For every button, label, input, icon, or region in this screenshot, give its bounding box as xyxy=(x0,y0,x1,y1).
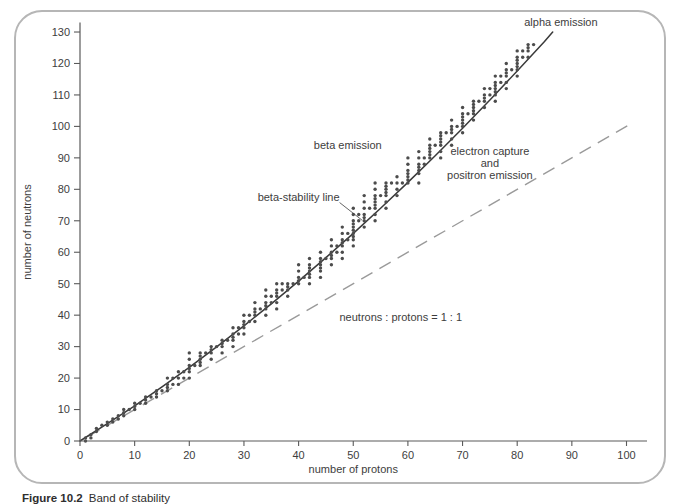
data-point xyxy=(406,181,409,184)
y-tick-label: 50 xyxy=(58,278,70,290)
data-point xyxy=(494,93,497,96)
data-point xyxy=(423,163,426,166)
data-point xyxy=(117,417,120,420)
data-point xyxy=(373,188,376,191)
data-point xyxy=(231,336,234,339)
data-point xyxy=(177,370,180,373)
data-point xyxy=(472,103,475,106)
data-point xyxy=(264,301,267,304)
data-point xyxy=(210,345,213,348)
data-point xyxy=(494,90,497,93)
data-point xyxy=(461,112,464,115)
data-point xyxy=(286,295,289,298)
data-point xyxy=(106,424,109,427)
data-point xyxy=(319,260,322,263)
data-point xyxy=(352,238,355,241)
data-point xyxy=(231,332,234,335)
data-point xyxy=(193,364,196,367)
data-point xyxy=(357,219,360,222)
data-point xyxy=(363,216,366,219)
data-point xyxy=(188,370,191,373)
data-point xyxy=(275,307,278,310)
data-point xyxy=(281,282,284,285)
data-point xyxy=(199,361,202,364)
data-point xyxy=(242,314,245,317)
data-point xyxy=(308,276,311,279)
y-tick-label: 70 xyxy=(58,215,70,227)
data-point xyxy=(352,225,355,228)
data-point xyxy=(439,137,442,140)
data-point xyxy=(439,150,442,153)
data-point xyxy=(297,276,300,279)
data-point xyxy=(450,131,453,134)
data-point xyxy=(220,345,223,348)
data-point xyxy=(149,395,152,398)
y-tick-label: 110 xyxy=(52,89,70,101)
y-tick-label: 120 xyxy=(52,57,70,69)
data-point xyxy=(275,282,278,285)
data-point xyxy=(363,225,366,228)
data-point xyxy=(428,150,431,153)
data-point xyxy=(199,364,202,367)
data-point xyxy=(466,112,469,115)
data-point xyxy=(505,87,508,90)
data-point xyxy=(155,389,158,392)
data-point xyxy=(352,244,355,247)
data-point xyxy=(417,169,420,172)
data-point xyxy=(417,172,420,175)
data-point xyxy=(155,392,158,395)
data-point xyxy=(472,106,475,109)
data-point xyxy=(516,49,519,52)
data-point xyxy=(384,194,387,197)
data-point xyxy=(319,276,322,279)
data-point xyxy=(177,376,180,379)
y-tick-label: 100 xyxy=(52,120,70,132)
annotation-line: and xyxy=(481,157,499,169)
data-point xyxy=(319,266,322,269)
annotation-beta-emission: beta emission xyxy=(314,139,382,151)
data-point xyxy=(330,244,333,247)
data-point xyxy=(516,65,519,68)
data-point xyxy=(166,383,169,386)
data-point xyxy=(352,219,355,222)
data-point xyxy=(270,295,273,298)
data-point xyxy=(231,345,234,348)
data-point xyxy=(445,131,448,134)
data-point xyxy=(526,49,529,52)
data-point xyxy=(308,263,311,266)
data-point xyxy=(188,364,191,367)
data-point xyxy=(319,251,322,254)
data-point xyxy=(275,288,278,291)
data-point xyxy=(384,185,387,188)
data-point xyxy=(242,320,245,323)
figure-caption-text: Band of stability xyxy=(89,492,170,504)
data-point xyxy=(450,118,453,121)
data-point xyxy=(352,232,355,235)
data-point xyxy=(308,269,311,272)
data-point xyxy=(133,408,136,411)
data-point xyxy=(363,213,366,216)
data-point xyxy=(352,229,355,232)
data-point xyxy=(264,288,267,291)
data-point xyxy=(406,169,409,172)
x-tick-label: 60 xyxy=(402,449,414,461)
data-point xyxy=(494,100,497,103)
data-point xyxy=(144,395,147,398)
data-point xyxy=(373,207,376,210)
data-point xyxy=(373,194,376,197)
data-point xyxy=(461,122,464,125)
data-point xyxy=(373,181,376,184)
data-point xyxy=(248,320,251,323)
data-point xyxy=(341,257,344,260)
data-point xyxy=(95,427,98,430)
data-point xyxy=(417,150,420,153)
data-point xyxy=(494,74,497,77)
data-point xyxy=(308,273,311,276)
data-point xyxy=(395,175,398,178)
data-point xyxy=(122,408,125,411)
data-point xyxy=(171,383,174,386)
data-point xyxy=(526,46,529,49)
data-point xyxy=(297,282,300,285)
data-point xyxy=(390,181,393,184)
data-point xyxy=(275,291,278,294)
